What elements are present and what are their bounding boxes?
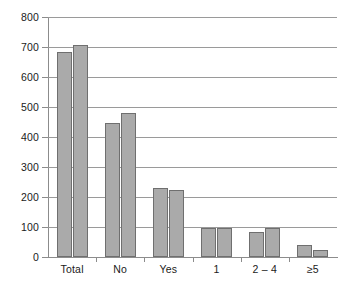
y-tick-800 — [42, 17, 48, 18]
y-axis-label: 100 — [21, 221, 39, 233]
bar — [73, 45, 88, 257]
gridline-y-200 — [48, 197, 337, 198]
gridline-y-300 — [48, 167, 337, 168]
x-tick — [241, 257, 242, 262]
y-axis-label: 600 — [21, 71, 39, 83]
y-axis-label: 0 — [33, 251, 39, 263]
y-tick-0 — [42, 257, 48, 258]
y-tick-100 — [42, 227, 48, 228]
gridline-y-600 — [48, 77, 337, 78]
gridline-y-800 — [48, 17, 337, 18]
bar — [249, 232, 264, 258]
x-tick — [96, 257, 97, 262]
bar — [153, 188, 168, 257]
y-axis-label: 300 — [21, 161, 39, 173]
x-axis-label-2: Yes — [160, 263, 178, 275]
bar — [169, 190, 184, 257]
x-tick — [144, 257, 145, 262]
bar — [265, 228, 280, 257]
bar — [217, 228, 232, 257]
x-tick — [289, 257, 290, 262]
y-axis-label: 700 — [21, 41, 39, 53]
x-tick — [193, 257, 194, 262]
y-tick-300 — [42, 167, 48, 168]
y-axis-label: 800 — [21, 11, 39, 23]
x-axis-label-1: No — [113, 263, 127, 275]
gridline-y-400 — [48, 137, 337, 138]
plot-area: 0100200300400500600700800 — [48, 17, 337, 257]
gridline-y-700 — [48, 47, 337, 48]
x-axis-label-0: Total — [60, 263, 83, 275]
x-axis-label-5: ≥5 — [307, 263, 319, 275]
y-axis-label: 200 — [21, 191, 39, 203]
y-axis-label: 500 — [21, 101, 39, 113]
bar — [121, 113, 136, 257]
bar — [57, 52, 72, 257]
bar — [201, 228, 216, 257]
x-axis-label-3: 1 — [214, 263, 220, 275]
bar — [313, 250, 328, 257]
bar-chart: 0100200300400500600700800 TotalNoYes12 –… — [0, 0, 353, 282]
bar — [105, 123, 120, 257]
gridline-y-500 — [48, 107, 337, 108]
y-tick-400 — [42, 137, 48, 138]
y-axis-label: 400 — [21, 131, 39, 143]
y-tick-700 — [42, 47, 48, 48]
y-tick-200 — [42, 197, 48, 198]
x-axis-label-4: 2 – 4 — [253, 263, 277, 275]
gridline-y-100 — [48, 227, 337, 228]
bar — [297, 245, 312, 257]
y-tick-600 — [42, 77, 48, 78]
y-tick-500 — [42, 107, 48, 108]
